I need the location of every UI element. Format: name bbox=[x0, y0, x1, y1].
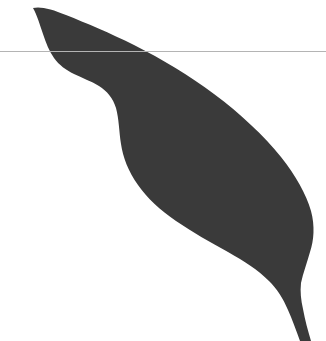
leaf-figure bbox=[0, 0, 326, 341]
image-canvas bbox=[0, 0, 326, 341]
